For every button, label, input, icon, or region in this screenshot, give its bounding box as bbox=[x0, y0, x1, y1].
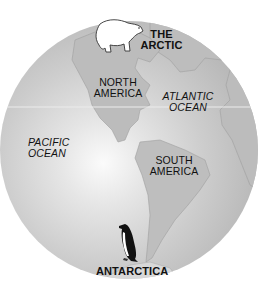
label-the-arctic: THE ARCTIC bbox=[139, 29, 184, 51]
globe-map: THE ARCTIC NORTH AMERICA ATLANTIC OCEAN … bbox=[0, 0, 259, 282]
label-north-america-line2: AMERICA bbox=[92, 88, 144, 99]
label-atlantic-ocean: ATLANTIC OCEAN bbox=[160, 91, 216, 113]
label-north-america: NORTH AMERICA bbox=[92, 77, 144, 99]
label-south-america-line2: AMERICA bbox=[148, 166, 200, 177]
label-south-america: SOUTH AMERICA bbox=[148, 155, 200, 177]
label-antarctica: ANTARCTICA bbox=[96, 266, 166, 277]
label-arctic-line2: ARCTIC bbox=[139, 40, 184, 51]
label-atlantic-line2: OCEAN bbox=[160, 102, 216, 113]
label-pacific-line2: OCEAN bbox=[28, 148, 74, 159]
label-antarctica-line1: ANTARCTICA bbox=[96, 266, 166, 277]
label-pacific-ocean: PACIFIC OCEAN bbox=[28, 137, 74, 159]
